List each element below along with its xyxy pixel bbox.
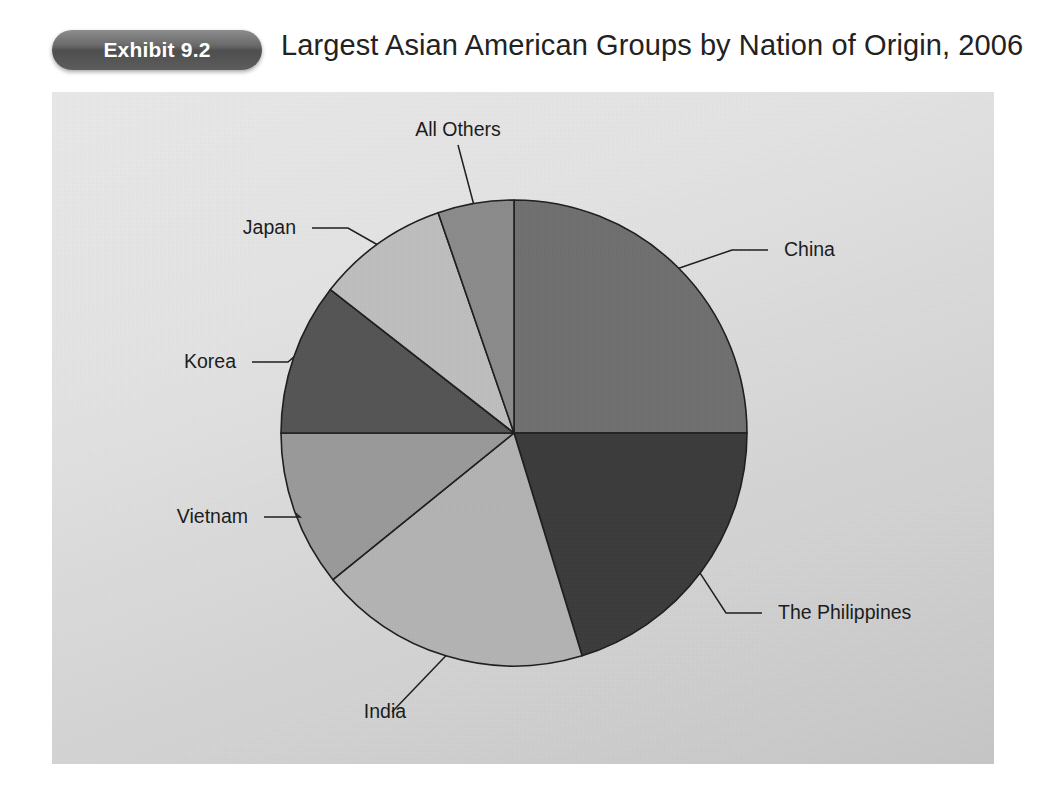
pie-slice-china[interactable]	[514, 200, 747, 433]
slice-label-japan: Japan	[243, 216, 296, 238]
leader-line-china	[679, 250, 768, 268]
exhibit-title: Largest Asian American Groups by Nation …	[281, 29, 1023, 62]
pie-slices	[281, 200, 747, 666]
exhibit-header: Exhibit 9.2 Largest Asian American Group…	[0, 0, 1040, 92]
slice-label-vietnam: Vietnam	[177, 505, 248, 527]
slice-label-the-philippines: The Philippines	[778, 601, 912, 623]
chart-panel: ChinaThe PhilippinesIndiaVietnamKoreaJap…	[52, 92, 994, 764]
exhibit-badge: Exhibit 9.2	[52, 30, 262, 70]
leader-line-the-philippines	[700, 573, 762, 613]
leader-line-korea	[252, 357, 294, 362]
slice-label-all-others: All Others	[415, 118, 501, 140]
leader-line-all-others	[458, 145, 474, 204]
pie-chart: ChinaThe PhilippinesIndiaVietnamKoreaJap…	[52, 92, 994, 764]
exhibit-number-label: Exhibit 9.2	[103, 38, 210, 62]
slice-label-china: China	[784, 238, 835, 260]
slice-label-korea: Korea	[184, 350, 236, 372]
exhibit-page: Exhibit 9.2 Largest Asian American Group…	[0, 0, 1040, 800]
leader-line-japan	[312, 228, 377, 245]
slice-label-india: India	[364, 700, 406, 722]
